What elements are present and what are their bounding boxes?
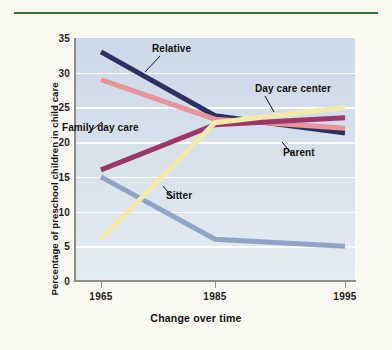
x-tick-mark-1985 (215, 282, 216, 288)
x-tick-1995: 1995 (333, 291, 356, 302)
y-axis-title-holder: Percentage of preschool children in chil… (26, 30, 46, 290)
y-tick-35: 35 (58, 33, 70, 44)
y-tick-5: 5 (64, 241, 70, 252)
x-tick-mark-1995 (345, 282, 346, 288)
series-label-family-day-care: Family day care (62, 122, 139, 133)
y-axis-tick-labels: 35 30 25 20 15 10 5 0 (46, 0, 70, 350)
y-tick-30: 30 (58, 67, 70, 78)
line-sitter (101, 177, 345, 246)
leader-line-relative (145, 56, 160, 72)
series-label-day-care-center: Day care center (255, 83, 331, 94)
series-lines (75, 38, 355, 281)
plot-area (75, 38, 355, 281)
y-tick-10: 10 (58, 206, 70, 217)
y-tick-20: 20 (58, 137, 70, 148)
leader-line-day-care-center (265, 96, 274, 112)
figure-canvas: Percentage of preschool children in chil… (0, 0, 392, 350)
y-axis-line (74, 38, 76, 282)
x-tick-mark-1965 (101, 282, 102, 288)
y-tick-0: 0 (64, 276, 70, 287)
series-label-relative: Relative (152, 43, 191, 54)
series-label-parent: Parent (283, 147, 315, 158)
x-axis-title: Change over time (0, 312, 392, 324)
series-label-sitter: Sitter (166, 190, 192, 201)
y-tick-25: 25 (58, 102, 70, 113)
y-tick-15: 15 (58, 171, 70, 182)
x-tick-1985: 1985 (203, 291, 226, 302)
x-tick-1965: 1965 (89, 291, 112, 302)
